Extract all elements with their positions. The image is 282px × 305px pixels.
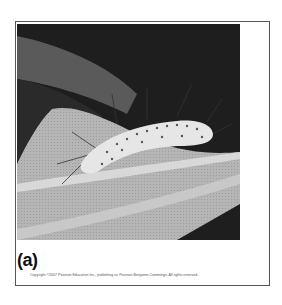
- panel-label: (a): [17, 250, 38, 271]
- figure-frame: (a) Copyright ©2007 Pearson Education In…: [15, 21, 270, 286]
- copyright-notice: Copyright ©2007 Pearson Education Inc., …: [30, 273, 270, 277]
- caterpillar-image: [17, 24, 240, 240]
- caterpillar-photo: [17, 24, 240, 240]
